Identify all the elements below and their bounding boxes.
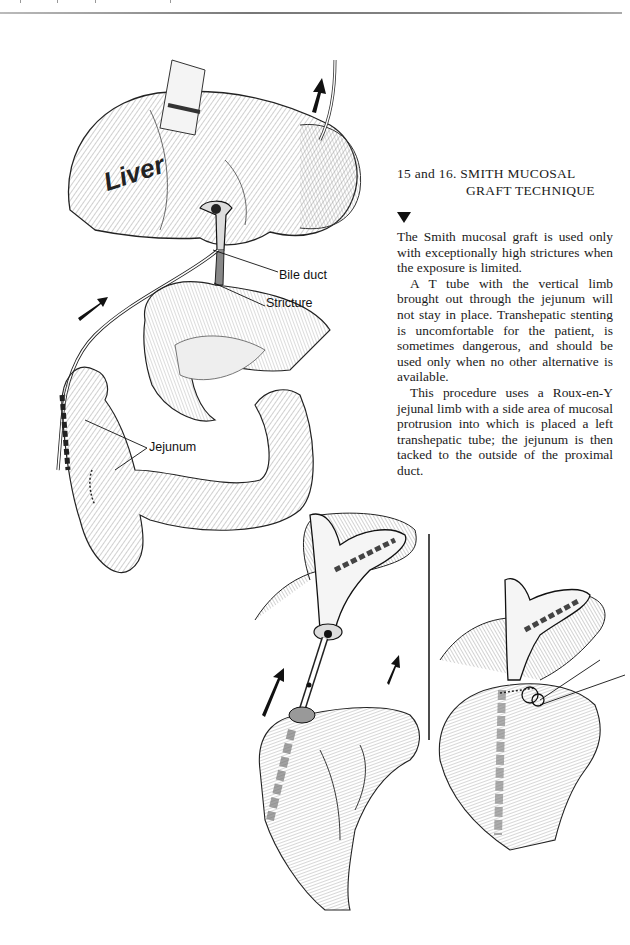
- jejunum-callout: Jejunum: [149, 440, 196, 454]
- stricture-callout: Stricture: [266, 296, 313, 310]
- panel-tube-placement: [255, 513, 419, 910]
- bile-duct-callout: Bile duct: [279, 268, 327, 282]
- arrow-diagonal-icon: [78, 297, 108, 321]
- figure-16-illustration: [240, 490, 630, 945]
- panel-tacked-anastomosis: [439, 579, 625, 850]
- arrow-up-icon: [387, 655, 400, 685]
- figure-16-drawing: [240, 490, 630, 945]
- arrow-up-icon: [262, 668, 284, 717]
- arrow-up-icon: [312, 78, 326, 113]
